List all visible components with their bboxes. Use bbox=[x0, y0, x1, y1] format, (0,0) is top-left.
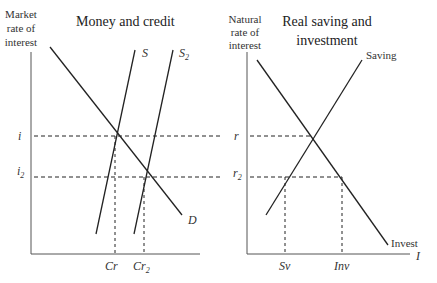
i-tick-label: i bbox=[18, 129, 21, 143]
right-panel-real-saving-investment: Real saving and investment Natural rate … bbox=[229, 13, 421, 273]
cr2-tick-label: Cr2 bbox=[133, 259, 150, 275]
sv-tick-label: Sv bbox=[279, 259, 291, 273]
i2-tick-label: i2 bbox=[17, 164, 24, 180]
supply2-label: S2 bbox=[179, 46, 189, 62]
cr-tick-label: Cr bbox=[105, 259, 118, 273]
x-axis-label-i: I bbox=[415, 249, 421, 263]
saving-curve bbox=[266, 60, 362, 215]
right-panel-title-line1: Real saving and bbox=[282, 14, 371, 29]
left-panel-money-and-credit: Money and credit Market rate of interest… bbox=[5, 8, 220, 275]
supply2-curve bbox=[134, 50, 173, 234]
right-y-axis-label-line1: Natural bbox=[229, 13, 262, 25]
r-tick-label: r bbox=[234, 129, 239, 143]
demand-curve bbox=[50, 47, 182, 215]
r2-tick-label: r2 bbox=[233, 166, 242, 182]
supply-label: S bbox=[142, 46, 148, 60]
left-y-axis-label-line1: Market bbox=[5, 8, 37, 20]
saving-label: Saving bbox=[366, 49, 397, 61]
right-panel-title-line2: investment bbox=[296, 33, 358, 48]
diagram-canvas: Money and credit Market rate of interest… bbox=[0, 0, 437, 283]
invest-label: Invest bbox=[391, 237, 418, 249]
inv-tick-label: Inv bbox=[333, 259, 350, 273]
right-y-axis-label-line2: rate of bbox=[231, 26, 260, 38]
right-y-axis-label-line3: interest bbox=[229, 39, 261, 51]
invest-curve bbox=[257, 60, 388, 245]
left-y-axis-label-line3: interest bbox=[5, 36, 37, 48]
left-panel-title: Money and credit bbox=[76, 14, 175, 29]
left-y-axis-label-line2: rate of bbox=[7, 22, 36, 34]
supply-curve bbox=[96, 50, 135, 234]
demand-label: D bbox=[187, 213, 197, 227]
